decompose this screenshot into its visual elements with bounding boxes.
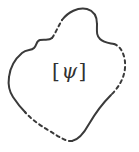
region-label: [ψ] [0, 58, 139, 84]
boundary-segment-top-right-shoulder-solid [97, 24, 114, 44]
close-bracket-glyph: ] [79, 59, 87, 83]
boundary-segment-upper-left-dashed [52, 20, 62, 38]
boundary-segment-top-arc-solid [62, 9, 97, 24]
boundary-segment-bottom-right-solid [72, 95, 111, 141]
psi-glyph: ψ [60, 59, 78, 83]
boundary-segment-bottom-left-dashed [25, 112, 72, 141]
figure-canvas: [ψ] [0, 0, 139, 152]
